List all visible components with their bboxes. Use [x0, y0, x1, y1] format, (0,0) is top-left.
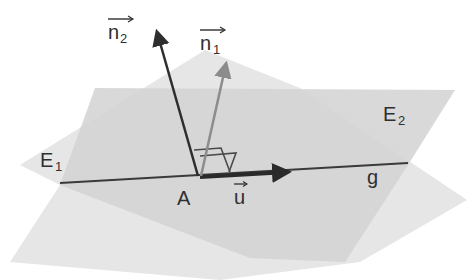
- label-n2-sub: 2: [120, 31, 127, 46]
- label-n1-sub: 1: [213, 42, 220, 57]
- label-n1-base: n: [200, 32, 211, 54]
- label-n2: n 2: [108, 16, 133, 46]
- label-n1: n 1: [200, 27, 225, 57]
- label-u: u: [234, 182, 247, 209]
- label-e1-sub: 1: [55, 159, 62, 174]
- label-u-base: u: [234, 186, 245, 208]
- label-g: g: [367, 166, 378, 188]
- label-point-a: A: [177, 187, 191, 209]
- label-n2-base: n: [108, 21, 119, 43]
- intersecting-planes-diagram: n 2 n 1 E 1 E 2 g A u: [0, 0, 467, 280]
- label-e2-sub: 2: [398, 113, 405, 128]
- label-e1-base: E: [40, 149, 53, 171]
- label-e2-base: E: [383, 103, 396, 125]
